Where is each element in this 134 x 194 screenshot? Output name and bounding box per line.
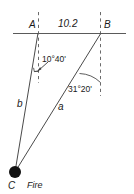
point-label-c: C bbox=[8, 181, 15, 191]
point-label-a: A bbox=[29, 20, 36, 30]
side-label-b: b bbox=[17, 99, 23, 109]
segment-length-label-ab: 10.2 bbox=[58, 19, 77, 29]
diagram-canvas bbox=[0, 0, 134, 194]
side-label-a: a bbox=[58, 102, 64, 112]
angle-label-at-b: 31°20' bbox=[68, 85, 92, 94]
angle-a-arrowhead bbox=[37, 67, 41, 72]
fire-annotation-label: Fire bbox=[27, 181, 43, 190]
fire-marker-dot bbox=[9, 166, 21, 178]
angle-label-at-a: 10°40' bbox=[42, 55, 66, 64]
angle-arc-at-b bbox=[80, 74, 101, 83]
geometry-diagram: A B 10.2 b a C Fire 10°40' 31°20' bbox=[0, 0, 134, 194]
point-label-b: B bbox=[104, 20, 111, 30]
